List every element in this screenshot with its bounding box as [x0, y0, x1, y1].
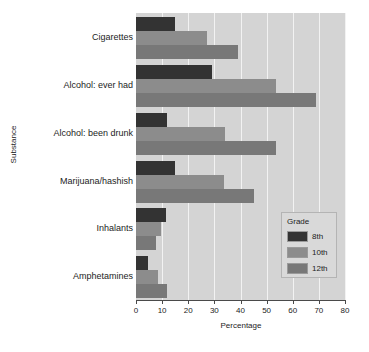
legend-label: 12th: [312, 264, 328, 273]
x-axis-tick-label: 60: [288, 306, 297, 315]
legend-label: 8th: [312, 232, 323, 241]
y-axis-tick-label: Cigarettes: [5, 32, 133, 42]
bar: [136, 113, 167, 127]
bar: [136, 284, 167, 298]
legend-label: 10th: [312, 248, 328, 257]
y-axis-tick-label: Inhalants: [5, 223, 133, 233]
bar: [136, 236, 156, 250]
bar: [136, 161, 175, 175]
x-axis-tick-label: 10: [158, 306, 167, 315]
y-axis-category-labels: CigarettesAlcohol: ever hadAlcohol: been…: [0, 0, 133, 352]
bar: [136, 222, 161, 236]
x-axis-tick-label: 30: [210, 306, 219, 315]
bar: [136, 189, 254, 203]
x-axis-tick: [267, 300, 268, 304]
bar: [136, 208, 166, 222]
gridline: [267, 13, 268, 300]
x-axis-tick: [162, 300, 163, 304]
x-axis-tick-label: 80: [341, 306, 350, 315]
x-axis-tick: [214, 300, 215, 304]
legend-title: Grade: [287, 217, 331, 226]
legend-entries: 8th10th12th: [287, 229, 331, 275]
legend-entry: 10th: [287, 245, 331, 259]
bar: [136, 127, 225, 141]
bar: [136, 175, 224, 189]
chart-figure: Substance CigarettesAlcohol: ever hadAlc…: [0, 0, 369, 352]
x-axis-tick-label: 20: [184, 306, 193, 315]
legend-swatch: [287, 263, 308, 274]
bar: [136, 65, 212, 79]
bar: [136, 270, 158, 284]
x-axis-tick: [293, 300, 294, 304]
y-axis-tick-label: Marijuana/hashish: [5, 176, 133, 186]
y-axis-tick-label: Alcohol: ever had: [5, 80, 133, 90]
x-axis-tick: [241, 300, 242, 304]
x-axis-tick: [345, 300, 346, 304]
legend-entry: 12th: [287, 261, 331, 275]
x-axis-tick-label: 70: [314, 306, 323, 315]
legend-entry: 8th: [287, 229, 331, 243]
x-axis-tick-label: 0: [134, 306, 138, 315]
y-axis-tick-label: Alcohol: been drunk: [5, 128, 133, 138]
bar: [136, 17, 175, 31]
gridline: [345, 13, 346, 300]
bar: [136, 93, 316, 107]
bar: [136, 45, 238, 59]
x-axis-tick: [136, 300, 137, 304]
gridline: [241, 13, 242, 300]
bar: [136, 256, 148, 270]
legend-swatch: [287, 247, 308, 258]
x-axis-title: Percentage: [136, 321, 346, 330]
x-axis-tick: [188, 300, 189, 304]
bar: [136, 79, 276, 93]
x-axis-tick-label: 50: [262, 306, 271, 315]
x-axis-tick: [319, 300, 320, 304]
legend: Grade 8th10th12th: [281, 212, 337, 278]
bar: [136, 141, 276, 155]
bar: [136, 31, 207, 45]
y-axis-tick-label: Amphetamines: [5, 271, 133, 281]
x-axis-tick-label: 40: [236, 306, 245, 315]
legend-swatch: [287, 231, 308, 242]
